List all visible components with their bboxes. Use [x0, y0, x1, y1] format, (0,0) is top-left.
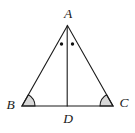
label-D: D — [62, 111, 73, 126]
angle-dot-left — [60, 42, 63, 45]
angle-dot-right — [71, 42, 74, 45]
stroke-group: A B C D — [6, 6, 129, 126]
label-A: A — [63, 6, 73, 21]
angle-mark-B — [22, 95, 35, 106]
angle-mark-C — [100, 95, 113, 106]
label-C: C — [119, 95, 129, 110]
triangle-diagram: A B C D — [0, 0, 135, 133]
geometry-figure: A B C D — [0, 0, 135, 133]
vertex-labels: A B C D — [6, 6, 129, 126]
label-B: B — [6, 97, 14, 112]
